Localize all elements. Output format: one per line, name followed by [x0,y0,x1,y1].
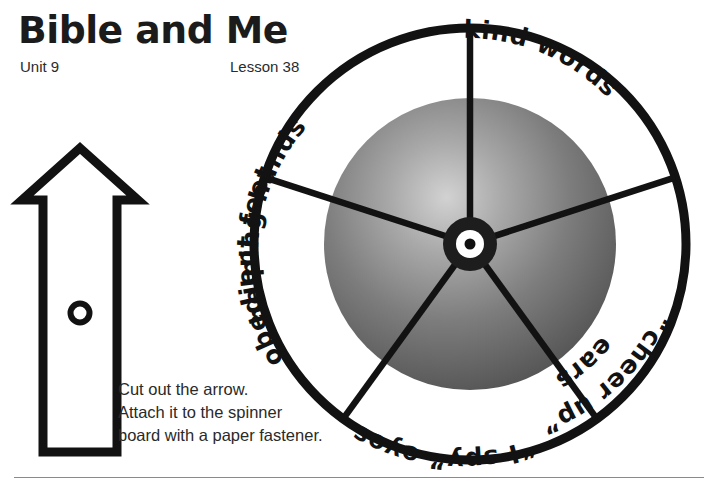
footer-divider [14,477,704,478]
instruction-line-3: board with a paper fastener. [118,424,328,447]
spinner-hub-center-icon [465,239,476,250]
worksheet-page: Bible and Me Unit 9 Lesson 38 [0,0,713,483]
spinner-stage: helping hands kind words “cheer up” ears… [0,0,713,483]
instruction-line-1: Cut out the arrow. [118,378,328,401]
instruction-line-2: Attach it to the spinner [118,401,328,424]
instructions-block: Cut out the arrow. Attach it to the spin… [118,378,328,446]
